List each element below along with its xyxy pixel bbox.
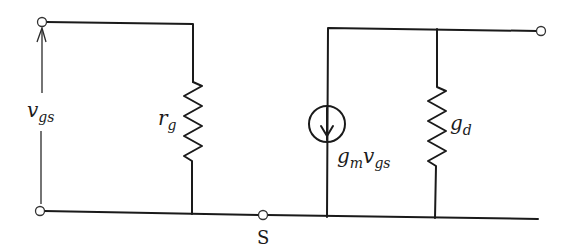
current-source-arrow-icon [321, 108, 333, 140]
top-left-wire [46, 22, 193, 82]
bottom-wire [44, 211, 538, 219]
gd-label-base: g [450, 111, 463, 135]
v-subscript: gs [374, 155, 390, 171]
rg-label-base: r [158, 106, 168, 130]
gd-resistor-icon [428, 29, 446, 218]
gd-label: gd [450, 113, 472, 137]
vgs-label-subscript: gs [38, 109, 54, 125]
rg-resistor-icon [184, 82, 202, 214]
vgs-label-base: v [27, 98, 38, 122]
source-node-text: S [257, 227, 269, 248]
rg-label: rg [158, 108, 177, 132]
circuit-diagram: vgs rg gmvgs gd S [0, 0, 571, 252]
gd-label-subscript: d [463, 122, 472, 138]
circuit-drawing [0, 0, 571, 252]
source-node-label: S [257, 229, 269, 247]
gm-subscript: m [350, 155, 363, 171]
terminal-source-s [259, 211, 268, 220]
terminal-drain-output [537, 27, 546, 36]
rg-label-subscript: g [168, 117, 177, 133]
current-source-label: gmvgs [337, 146, 391, 170]
gm-base: g [337, 144, 350, 168]
v-base: v [363, 144, 374, 168]
vgs-label: vgs [27, 100, 54, 124]
terminal-gate-bottom [36, 207, 45, 216]
terminal-gate-top [38, 18, 47, 27]
